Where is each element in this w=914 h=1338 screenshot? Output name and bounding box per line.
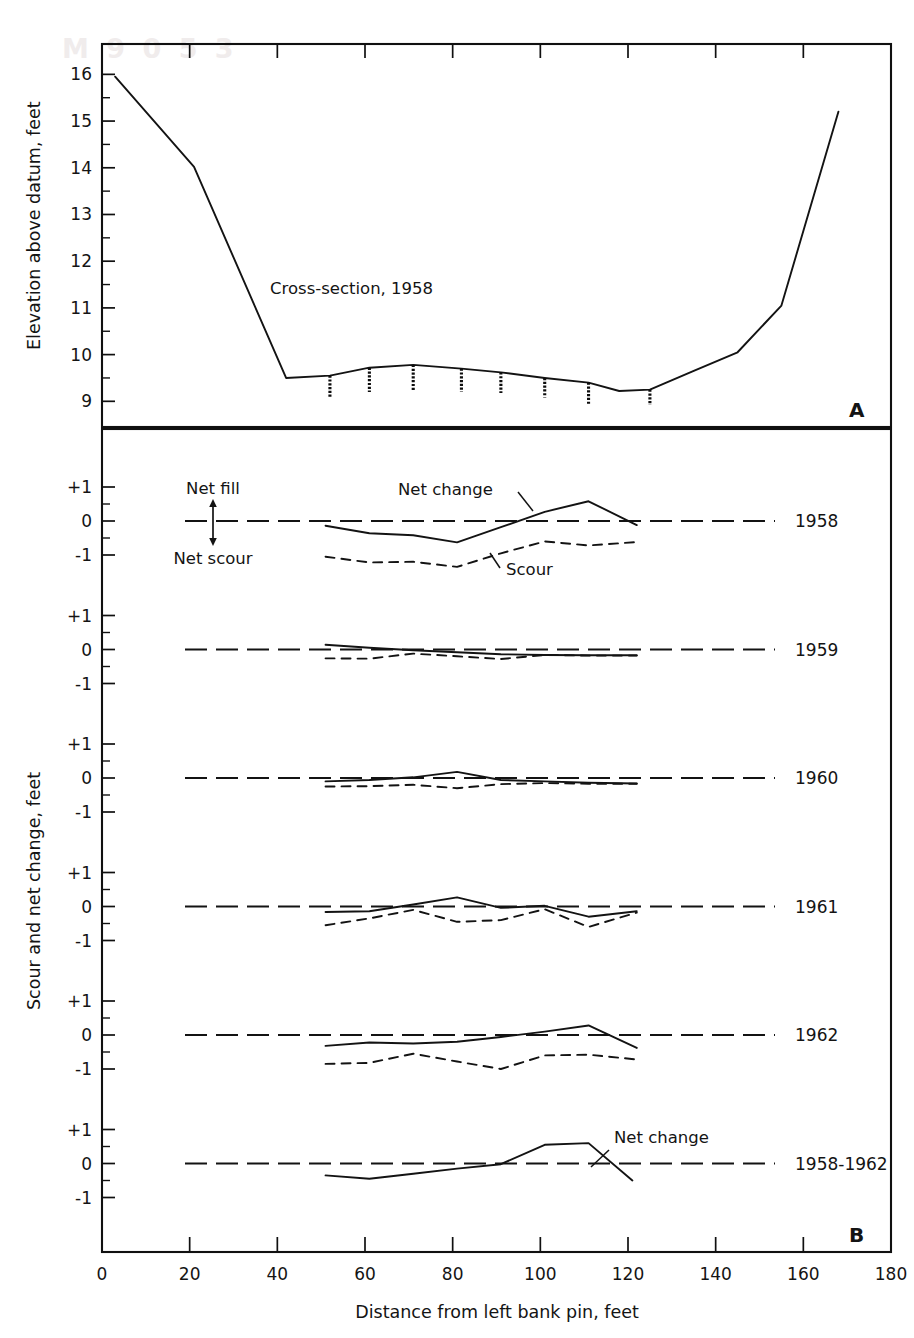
panel-b-y-tick-label: 0: [81, 1154, 92, 1174]
panel-b-y-tick-label: 0: [81, 897, 92, 917]
series-year-label: 1962: [795, 1025, 838, 1045]
series-year-label: 1960: [795, 768, 838, 788]
panel-b-y-tick-label: -1: [75, 802, 92, 822]
panel-b-y-tick-label: +1: [67, 734, 92, 754]
panel-a-y-tick-label: 13: [70, 204, 92, 224]
x-axis-tick-label: 120: [612, 1264, 644, 1284]
panel-b-y-tick-label: +1: [67, 991, 92, 1011]
cross-section-label: Cross-section, 1958: [270, 279, 433, 298]
series-year-label: 1958: [795, 511, 838, 531]
x-axis-tick-label: 60: [354, 1264, 376, 1284]
net-scour-label: Net scour: [173, 549, 252, 568]
x-axis-tick-label: 180: [875, 1264, 907, 1284]
figure-root: M 9 0 5 3 910111213141516 Elevation abov…: [0, 0, 914, 1338]
panel-b-y-tick-label: -1: [75, 931, 92, 951]
net-change-label: Net change: [398, 480, 493, 499]
panel-a-y-tick-label: 10: [70, 345, 92, 365]
series-year-label: 1961: [795, 897, 838, 917]
panel-b-y-tick-label: +1: [67, 477, 92, 497]
x-axis-tick-label: 40: [267, 1264, 289, 1284]
x-axis-tick-label: 0: [97, 1264, 108, 1284]
x-axis-tick-label: 80: [442, 1264, 464, 1284]
panel-a-y-axis-title: Elevation above datum, feet: [24, 101, 44, 350]
figure-background: [0, 0, 914, 1338]
x-axis-tick-label: 160: [787, 1264, 819, 1284]
panel-b-y-tick-label: 0: [81, 511, 92, 531]
panel-b-y-tick-label: +1: [67, 863, 92, 883]
panel-a-y-tick-label: 14: [70, 158, 92, 178]
net-fill-label: Net fill: [186, 479, 240, 498]
x-axis-title: Distance from left bank pin, feet: [355, 1302, 639, 1322]
panel-b-y-tick-label: +1: [67, 606, 92, 626]
figure-svg: M 9 0 5 3 910111213141516 Elevation abov…: [0, 0, 914, 1338]
panel-a-letter: A: [849, 398, 865, 422]
panel-b-y-tick-label: 0: [81, 768, 92, 788]
net-change-bottom-label: Net change: [614, 1128, 709, 1147]
panel-b-y-tick-label: -1: [75, 1188, 92, 1208]
panel-a-y-tick-label: 12: [70, 251, 92, 271]
panel-a-y-tick-label: 15: [70, 111, 92, 131]
series-year-label: 1959: [795, 640, 838, 660]
panel-b-y-tick-label: -1: [75, 1059, 92, 1079]
x-axis-tick-label: 140: [699, 1264, 731, 1284]
x-axis-tick-label: 100: [524, 1264, 556, 1284]
panel-a-y-tick-label: 9: [81, 391, 92, 411]
panel-b-y-tick-label: 0: [81, 1025, 92, 1045]
series-year-label: 1958-1962: [795, 1154, 888, 1174]
x-axis-tick-label: 20: [179, 1264, 201, 1284]
panel-a-y-tick-label: 16: [70, 64, 92, 84]
panel-b-y-axis-title: Scour and net change, feet: [24, 772, 44, 1010]
panel-b-y-tick-label: +1: [67, 1120, 92, 1140]
panel-b-letter: B: [849, 1223, 864, 1247]
panel-a-y-tick-label: 11: [70, 298, 92, 318]
watermark-text: M 9 0 5 3: [62, 33, 238, 64]
panel-b-y-tick-label: -1: [75, 545, 92, 565]
panel-b-y-tick-label: 0: [81, 640, 92, 660]
panel-b-y-tick-label: -1: [75, 674, 92, 694]
scour-label: Scour: [506, 560, 553, 579]
